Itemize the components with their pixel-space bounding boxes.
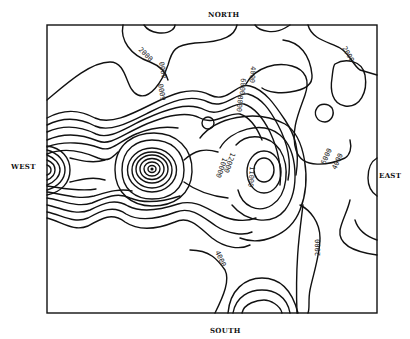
contour-label: 8000 — [235, 95, 244, 112]
contour-se-2000b — [297, 205, 303, 313]
contour-east-edge-arc — [368, 158, 377, 196]
contour-labels: 2000 2000 4000 6000 4000 6000 8000 12000… — [137, 45, 356, 268]
contour-east-ring-1 — [254, 158, 274, 182]
contour-link-lower — [184, 182, 228, 198]
contour-band-5 — [47, 127, 178, 149]
contour-east-ring-3 — [236, 137, 286, 209]
contour-top-dip — [144, 25, 175, 33]
contour-central-ring-8 — [115, 133, 192, 206]
contour-label: 10000 — [214, 156, 229, 179]
contour-map: 2000 2000 4000 6000 4000 6000 8000 12000… — [0, 0, 410, 339]
contour-ne-loop — [331, 61, 365, 106]
contour-label: 4000 — [248, 66, 257, 83]
contour-label: 6000 — [238, 78, 247, 95]
contour-east-ring-4 — [220, 128, 295, 220]
contour-south-bump-1 — [242, 300, 282, 313]
contour-label: 2000 — [314, 239, 322, 256]
contour-lower-2 — [47, 209, 252, 234]
contour-4000-upper — [47, 25, 237, 100]
contour-south-bump-3 — [228, 278, 298, 313]
central-peak-dot — [150, 167, 153, 170]
contour-west-peak-2 — [47, 155, 60, 185]
contour-south-bump-2 — [233, 290, 290, 313]
contour-lower-1 — [47, 217, 250, 248]
contour-label: 4000 — [331, 152, 345, 171]
contour-top-right-dip — [255, 25, 290, 32]
contour-lower-4 — [47, 195, 180, 204]
contour-label: 4000 — [158, 61, 169, 79]
contour-right-lower-2 — [355, 220, 377, 240]
contour-se-2000 — [300, 205, 320, 313]
contour-saddle-lower — [70, 178, 105, 182]
contour-4000-right — [246, 65, 351, 165]
contour-small-loop — [315, 104, 333, 122]
contour-label: 6000 — [157, 83, 168, 101]
contour-lower-5 — [47, 190, 132, 197]
contour-lines — [47, 25, 377, 313]
map-frame — [47, 25, 377, 313]
